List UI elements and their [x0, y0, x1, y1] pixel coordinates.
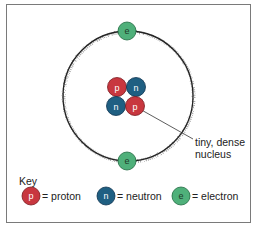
svg-text:e: e	[178, 191, 183, 201]
svg-text:e: e	[124, 26, 129, 36]
key-neutron-label: = neutron	[117, 190, 162, 202]
annotation-pointer	[138, 108, 193, 139]
svg-text:p: p	[28, 191, 33, 201]
svg-text:n: n	[103, 191, 108, 201]
svg-text:n: n	[113, 102, 118, 112]
svg-text:n: n	[133, 83, 138, 93]
nucleus: p n n p	[107, 78, 146, 116]
key-proton-label: = proton	[42, 190, 81, 202]
key-electron-label: = electron	[192, 190, 238, 202]
electron-orbit	[63, 31, 193, 161]
svg-text:p: p	[132, 102, 137, 112]
svg-text:e: e	[124, 156, 129, 166]
svg-text:p: p	[114, 83, 119, 93]
key-title: Key	[19, 175, 37, 187]
annotation-label: tiny, dense nucleus	[195, 136, 245, 160]
